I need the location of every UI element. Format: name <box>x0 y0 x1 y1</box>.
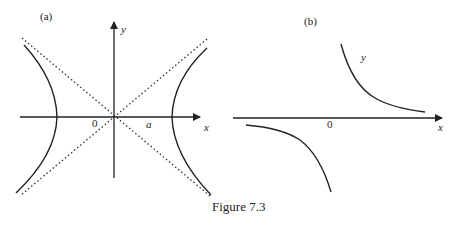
panel-b-lower-branch <box>246 125 331 192</box>
panel-a <box>16 22 211 196</box>
panel-b <box>233 44 442 192</box>
panel-b-origin-label: 0 <box>327 119 333 130</box>
panel-b-x-axis-label: x <box>438 122 443 133</box>
panel-a-vertex-label: a <box>146 119 152 130</box>
panel-a-label: (a) <box>40 11 52 22</box>
panel-a-origin-label: 0 <box>92 118 98 129</box>
figure-caption: Figure 7.3 <box>212 200 265 213</box>
panel-b-label: (b) <box>304 16 317 27</box>
panel-a-x-axis-label: x <box>204 122 209 133</box>
figure-canvas <box>0 0 461 225</box>
panel-b-upper-branch <box>341 44 425 112</box>
panel-a-y-axis-label: y <box>121 24 126 35</box>
panel-b-curve-label: y <box>361 52 366 63</box>
